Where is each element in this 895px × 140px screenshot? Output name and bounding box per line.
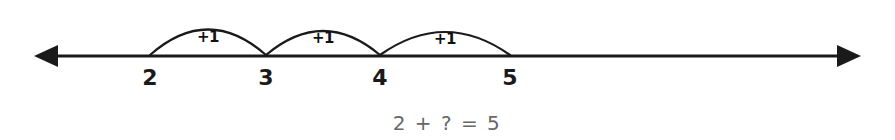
tick-label-5: 5 [502, 65, 517, 90]
number-line-diagram: +1 +1 +1 2 3 4 5 2 + ? = 5 [0, 0, 895, 140]
jump-arc-1-label: +1 [197, 28, 219, 46]
jump-arc-3-label: +1 [434, 30, 456, 48]
equation-caption: 2 + ? = 5 [393, 111, 502, 135]
right-arrowhead-icon [837, 45, 861, 67]
left-arrowhead-icon [34, 45, 58, 67]
jump-arc-2-label: +1 [312, 29, 334, 47]
number-line-figure: +1 +1 +1 2 3 4 5 2 + ? = 5 [0, 0, 895, 140]
tick-label-2: 2 [142, 65, 157, 90]
tick-label-4: 4 [372, 65, 387, 90]
tick-label-3: 3 [258, 65, 273, 90]
